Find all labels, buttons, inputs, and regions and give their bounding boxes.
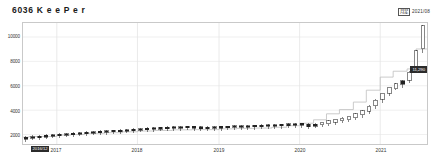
stock-chart-panel: 6036 K e e P e r 月足2021/08 10000 8000 60…: [0, 0, 435, 163]
chart-canvas: [23, 23, 427, 144]
x-axis-labels: 2017 2018 2019 2020 2021: [22, 148, 428, 160]
x-tick-2021: 2021: [375, 148, 386, 153]
period-tag[interactable]: 月足: [398, 8, 410, 16]
y-tick-4000: 4000: [10, 108, 20, 113]
y-tick-2000: 2000: [10, 133, 20, 138]
x-tick-2018: 2018: [131, 148, 142, 153]
y-tick-8000: 8000: [10, 59, 20, 64]
x-tick-2020: 2020: [294, 148, 305, 153]
plot-area[interactable]: 11,290: [22, 22, 428, 145]
y-tick-6000: 6000: [10, 83, 20, 88]
x-tick-2017: 2017: [50, 148, 61, 153]
chart-header: 6036 K e e P e r 月足2021/08: [0, 0, 435, 22]
x-tick-2019: 2019: [213, 148, 224, 153]
last-price-flag: 11,290: [410, 66, 427, 73]
chart-meta: 月足2021/08: [398, 8, 430, 16]
y-tick-10000: 10000: [8, 34, 20, 39]
as-of-date: 2021/08: [412, 9, 430, 14]
candlestick-series: [24, 25, 425, 142]
horizontal-gridlines: [23, 37, 427, 135]
y-axis-labels: 10000 8000 6000 4000 2000: [0, 22, 22, 145]
vertical-gridlines: [57, 23, 380, 144]
page-title: 6036 K e e P e r: [12, 5, 85, 15]
start-date-flag: 2016/12: [31, 146, 49, 152]
moving-average-step-line: [23, 49, 427, 137]
